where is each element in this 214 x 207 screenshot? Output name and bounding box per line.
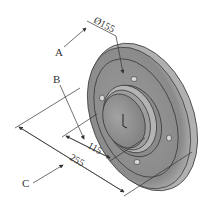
callout-label-b: B: [53, 74, 60, 85]
technical-drawing: A B C Ø155 115 255: [0, 0, 214, 207]
callout-label-c: C: [22, 178, 29, 189]
callout-label-a: A: [55, 47, 63, 58]
